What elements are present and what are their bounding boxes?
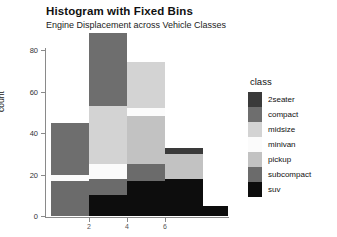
y-tick-0 (41, 216, 46, 217)
bar-segment (89, 106, 127, 164)
legend-item-suv[interactable]: suv (248, 182, 336, 197)
bar-segment (127, 108, 165, 116)
legend-title: class (250, 76, 336, 87)
bar-segment (127, 116, 165, 164)
bar-segment (51, 123, 89, 175)
legend-swatch-minivan (248, 137, 262, 152)
chart-root: Histogram with Fixed Bins Engine Displac… (0, 0, 337, 237)
legend-swatch-midsize (248, 122, 262, 137)
legend: class 2seatercompactmidsizeminivanpickup… (248, 76, 336, 197)
legend-item-2seater[interactable]: 2seater (248, 92, 336, 107)
legend-label: 2seater (268, 95, 295, 104)
y-tick-label-40: 40 (16, 129, 38, 138)
legend-label: midsize (268, 125, 295, 134)
legend-swatch-suv (248, 182, 262, 197)
y-tick-label-0: 0 (16, 212, 38, 221)
bar-segment (89, 179, 127, 196)
legend-item-subcompact[interactable]: subcompact (248, 167, 336, 182)
bar-segment (127, 62, 165, 108)
x-tick-4 (127, 217, 128, 222)
legend-item-compact[interactable]: compact (248, 107, 336, 122)
bar-segment (51, 181, 89, 216)
bar-segment (165, 179, 203, 216)
x-tick-label-4: 4 (116, 223, 138, 230)
x-tick-label-2: 2 (78, 223, 100, 230)
bar-segment (89, 164, 127, 179)
legend-label: suv (268, 185, 280, 194)
bar-segment (203, 206, 228, 216)
y-tick-label-60: 60 (16, 88, 38, 97)
bar-segment (89, 33, 127, 106)
legend-item-pickup[interactable]: pickup (248, 152, 336, 167)
legend-items: 2seatercompactmidsizeminivanpickupsubcom… (248, 92, 336, 197)
legend-label: minivan (268, 140, 296, 149)
legend-swatch-2seater (248, 92, 262, 107)
y-tick-label-80: 80 (16, 46, 38, 55)
x-tick-2 (89, 217, 90, 222)
legend-item-minivan[interactable]: minivan (248, 137, 336, 152)
y-axis-title: count (0, 91, 6, 112)
legend-label: pickup (268, 155, 291, 164)
x-tick-6 (165, 217, 166, 222)
bar-segment (89, 195, 127, 216)
chart-title: Histogram with Fixed Bins (46, 5, 193, 17)
bar-segment (127, 164, 165, 181)
legend-label: compact (268, 110, 298, 119)
plot-panel (46, 44, 228, 216)
bar-segment (165, 154, 203, 179)
legend-label: subcompact (268, 170, 311, 179)
legend-swatch-subcompact (248, 167, 262, 182)
x-axis-line (45, 217, 229, 218)
legend-item-midsize[interactable]: midsize (248, 122, 336, 137)
x-tick-label-6: 6 (154, 223, 176, 230)
legend-swatch-compact (248, 107, 262, 122)
y-tick-label-20: 20 (16, 171, 38, 180)
bar-segment (127, 181, 165, 216)
legend-swatch-pickup (248, 152, 262, 167)
chart-subtitle: Engine Displacement across Vehicle Class… (46, 20, 226, 30)
